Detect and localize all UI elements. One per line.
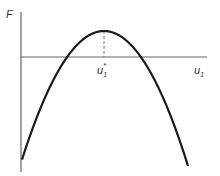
x-axis-label: u1 [194,64,204,78]
optimum-label: u1* [97,61,107,78]
optimum-label-sup: * [103,61,107,70]
diagram-canvas: F u1* u1 [0,0,220,176]
y-axis-label: F [6,8,14,20]
optimum-label-sub: 1 [103,71,107,78]
objective-curve [22,31,188,166]
x-axis-label-sub: 1 [200,71,204,78]
